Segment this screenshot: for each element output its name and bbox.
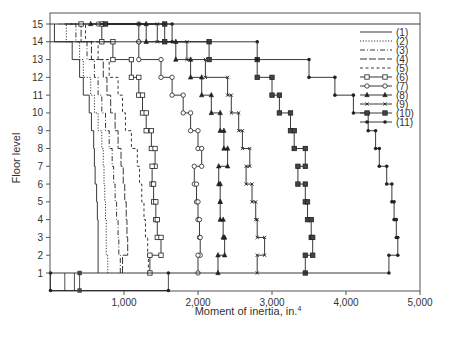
series-1 [54, 24, 98, 273]
series-2 [59, 24, 108, 273]
x-axis-title: Moment of inertia, in.4 [195, 305, 302, 317]
y-tick-label: 4 [37, 214, 43, 225]
y-tick-label: 11 [33, 90, 44, 101]
x-tick-label: 1,000 [111, 297, 136, 308]
y-tick-label: 8 [37, 143, 43, 154]
series-5 [66, 24, 148, 273]
y-tick-label: 7 [37, 161, 43, 172]
y-tick-label: 2 [37, 250, 43, 261]
y-axis: 123456789101112131415 [32, 19, 50, 279]
plot-area-border [50, 13, 420, 291]
series-layer [49, 21, 420, 292]
chart: 1,0002,0003,0004,0005,000 12345678910111… [0, 0, 449, 339]
legend: (1)(2)(3)(4)(5)(6)(7)(8)(9)(10)(11) [360, 27, 414, 128]
plot-frame [50, 13, 420, 291]
x-tick-label: 5,000 [407, 297, 432, 308]
y-tick-label: 5 [37, 196, 43, 207]
x-tick-label: 4,000 [333, 297, 358, 308]
y-tick-label: 14 [32, 36, 44, 47]
y-tick-label: 15 [32, 19, 44, 30]
y-tick-label: 9 [37, 125, 43, 136]
y-tick-label: 6 [37, 179, 43, 190]
y-tick-label: 3 [37, 232, 43, 243]
legend-label: (11) [396, 117, 413, 128]
y-tick-label: 10 [32, 107, 44, 118]
y-tick-label: 12 [32, 72, 44, 83]
series-9 [100, 22, 266, 274]
y-axis-title: Floor level [10, 133, 22, 184]
y-tick-label: 13 [32, 54, 44, 65]
y-tick-label: 1 [37, 268, 43, 279]
